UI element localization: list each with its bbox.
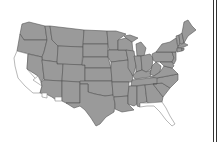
arizona-border-area-2[interactable] (55, 97, 62, 101)
us-states-map (0, 0, 205, 142)
frame-border-line-right (216, 0, 217, 142)
state-mississippi[interactable] (128, 86, 137, 106)
state-wyoming[interactable] (57, 46, 83, 65)
state-arkansas[interactable] (112, 82, 129, 97)
state-new-mexico[interactable] (62, 81, 80, 103)
state-nebraska[interactable] (82, 57, 111, 68)
state-colorado[interactable] (62, 64, 85, 82)
state-north-dakota[interactable] (83, 30, 108, 44)
state-michigan[interactable] (136, 42, 146, 56)
frame-border-line-left (213, 0, 214, 142)
state-kansas[interactable] (85, 68, 112, 81)
state-new-york[interactable] (156, 38, 178, 52)
state-rhode-island[interactable] (182, 48, 184, 51)
state-south-dakota[interactable] (83, 44, 108, 57)
state-pennsylvania[interactable] (152, 52, 174, 62)
state-connecticut[interactable] (177, 48, 182, 52)
state-washington[interactable] (20, 22, 47, 40)
arizona-border-area[interactable] (42, 93, 47, 98)
state-maine[interactable] (182, 20, 196, 43)
state-florida[interactable] (140, 102, 175, 126)
